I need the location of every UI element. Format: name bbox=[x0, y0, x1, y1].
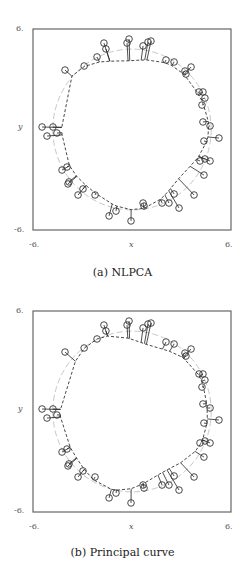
projection-segment bbox=[158, 475, 162, 485]
projection-segment bbox=[129, 321, 130, 339]
projection-segment bbox=[198, 92, 199, 93]
y-tick-min: -6. bbox=[14, 225, 24, 234]
data-point bbox=[113, 208, 120, 215]
data-point bbox=[65, 181, 72, 188]
x-axis-label: x bbox=[129, 240, 134, 249]
scatter-plot-principal-curve bbox=[0, 290, 245, 587]
y-tick-min: -6. bbox=[14, 506, 24, 515]
projection-segment bbox=[62, 166, 69, 170]
data-point bbox=[171, 341, 178, 348]
data-point bbox=[113, 490, 120, 497]
data-point bbox=[62, 67, 69, 74]
data-point bbox=[81, 63, 88, 70]
projection-segment bbox=[42, 409, 60, 410]
projection-segment bbox=[95, 194, 96, 195]
plot-frame bbox=[33, 29, 231, 230]
y-tick-max: 6. bbox=[16, 306, 24, 315]
data-point bbox=[65, 463, 72, 470]
projection-segment bbox=[127, 43, 128, 61]
projection-segment bbox=[109, 489, 111, 498]
x-tick-min: -6. bbox=[29, 522, 39, 531]
projection-segment bbox=[208, 137, 219, 138]
x-tick-min: -6. bbox=[29, 240, 39, 249]
y-axis-label: y bbox=[18, 122, 23, 131]
caption-nlpca: (a) NLPCA bbox=[0, 266, 245, 279]
projection-segment bbox=[116, 490, 117, 493]
projection-segment bbox=[141, 328, 143, 343]
x-tick-max: 6. bbox=[225, 240, 233, 249]
plot-frame bbox=[33, 311, 231, 512]
caption-principal-curve: (b) Principal curve bbox=[0, 546, 245, 559]
x-axis-label: x bbox=[129, 522, 134, 531]
projection-segment bbox=[141, 46, 143, 60]
panel-nlpca: 6. -6. y -6. 6. x (a) NLPCA bbox=[0, 0, 245, 290]
y-tick-max: 6. bbox=[16, 24, 24, 33]
projection-segment bbox=[94, 477, 96, 480]
data-point bbox=[94, 54, 101, 61]
projection-segment bbox=[202, 105, 203, 106]
y-axis-label: y bbox=[18, 404, 23, 413]
data-point bbox=[163, 339, 170, 346]
data-point bbox=[62, 349, 69, 356]
projection-segment bbox=[116, 206, 117, 211]
x-tick-max: 6. bbox=[225, 522, 233, 531]
panel-principal-curve: 6. -6. y -6. 6. x (b) Principal curve bbox=[0, 290, 245, 587]
projection-segment bbox=[165, 60, 166, 63]
projection-segment bbox=[127, 325, 128, 338]
projection-segment bbox=[143, 203, 144, 208]
projection-segment bbox=[203, 121, 208, 122]
projection-segment bbox=[207, 419, 219, 420]
